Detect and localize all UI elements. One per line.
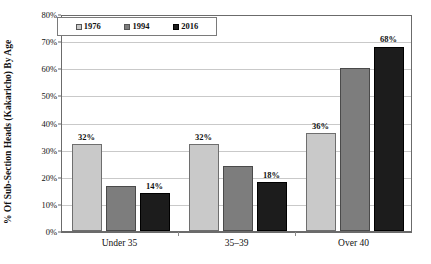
x-axis-line — [61, 232, 412, 233]
plot-area: 32%14%32%18%36%68% — [61, 15, 412, 232]
x-tick-mark — [295, 232, 296, 236]
y-tick-label: 10% — [20, 201, 57, 210]
bar-1994-35–39 — [223, 166, 253, 231]
y-tick-label: 0% — [20, 228, 57, 237]
y-tick-label: 70% — [20, 38, 57, 47]
legend-label-2016: 2016 — [181, 22, 198, 31]
y-tick-label: 20% — [20, 174, 57, 183]
y-tick-label: 60% — [20, 65, 57, 74]
legend-item-1994[interactable]: 1994 — [124, 22, 149, 31]
legend-swatch-icon-2016 — [173, 24, 179, 30]
y-tick-label: 50% — [20, 92, 57, 101]
x-category-label: 35–39 — [225, 239, 249, 249]
x-category-label: Under 35 — [102, 239, 138, 249]
legend: 1976 1994 2016 — [57, 17, 217, 36]
x-tick-mark — [178, 232, 179, 236]
legend-swatch-icon-1976 — [76, 24, 82, 30]
bar-1976-35–39 — [189, 144, 219, 231]
legend-item-2016[interactable]: 2016 — [173, 22, 198, 31]
legend-label-1994: 1994 — [132, 22, 149, 31]
legend-label-1976: 1976 — [84, 22, 101, 31]
x-category-label: Over 40 — [338, 239, 369, 249]
bar-1994-under-35 — [106, 186, 136, 231]
y-tick-label: 30% — [20, 146, 57, 155]
y-axis-title: % Of Sub-Section Heads (Kakaricho) By Ag… — [0, 0, 15, 264]
bar-1976-under-35 — [72, 144, 102, 231]
bar-value-label: 14% — [140, 182, 170, 191]
bar-value-label: 32% — [189, 133, 219, 142]
bar-value-label: 32% — [72, 133, 102, 142]
y-tick-label: 40% — [20, 119, 57, 128]
bars-layer: 32%14%32%18%36%68% — [62, 16, 411, 231]
bar-2016-over-40 — [374, 47, 404, 231]
bar-1976-over-40 — [306, 133, 336, 231]
bar-value-label: 68% — [374, 35, 404, 44]
bar-chart: % Of Sub-Section Heads (Kakaricho) By Ag… — [0, 0, 431, 264]
bar-2016-35–39 — [257, 182, 287, 231]
bar-value-label: 18% — [257, 171, 287, 180]
y-tick-label: 80% — [20, 11, 57, 20]
legend-item-1976[interactable]: 1976 — [76, 22, 101, 31]
legend-swatch-icon-1994 — [124, 24, 130, 30]
bar-value-label: 36% — [306, 122, 336, 131]
bar-1994-over-40 — [340, 68, 370, 231]
bar-2016-under-35 — [140, 193, 170, 231]
